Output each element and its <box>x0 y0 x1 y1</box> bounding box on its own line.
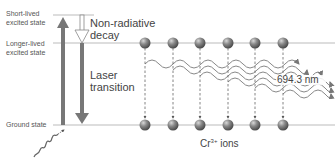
nonradiative-line2: decay <box>90 29 155 41</box>
short-lived-label-line2: excited state <box>6 19 45 28</box>
ion <box>278 120 289 131</box>
short-lived-label-line1: Short-lived <box>6 10 45 19</box>
nonradiative-decay-arrow <box>75 15 89 43</box>
laser-transition-label: Laser transition <box>90 69 135 93</box>
ion <box>140 120 151 131</box>
ion <box>168 38 179 49</box>
longer-lived-state-label: Longer-lived excited state <box>6 40 45 57</box>
ion <box>278 38 289 49</box>
laser-line2: transition <box>90 81 135 93</box>
ions-label-element: Cr <box>200 138 211 149</box>
nonradiative-decay-label: Non-radiative decay <box>90 17 155 41</box>
ion <box>195 38 206 49</box>
ion <box>250 120 261 131</box>
ion <box>195 120 206 131</box>
ground-state-label: Ground state <box>6 121 46 130</box>
ion <box>250 38 261 49</box>
ion-transition-dashes <box>145 48 283 118</box>
laser-line1: Laser <box>90 69 135 81</box>
ions-label-text: ions <box>217 138 238 149</box>
longer-lived-label-line2: excited state <box>6 49 45 58</box>
ion <box>168 120 179 131</box>
laser-transition-arrow <box>75 43 89 124</box>
pump-arrow <box>57 17 69 125</box>
pump-photon-icon <box>34 130 64 157</box>
ion <box>223 38 234 49</box>
nonradiative-line1: Non-radiative <box>90 17 155 29</box>
longer-lived-label-line1: Longer-lived <box>6 40 45 49</box>
wavelength-label: 694.3 nm <box>277 74 319 86</box>
ion <box>223 120 234 131</box>
ions-label: Cr3+ ions <box>200 135 239 150</box>
short-lived-state-label: Short-lived excited state <box>6 10 45 27</box>
